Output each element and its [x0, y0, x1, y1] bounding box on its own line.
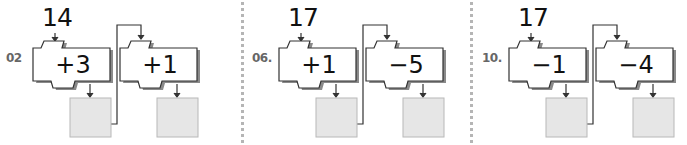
divider-1	[241, 2, 244, 143]
answer-input-1[interactable]	[316, 98, 358, 138]
answer-input-2[interactable]	[157, 98, 199, 138]
operation-1: −1	[513, 53, 585, 77]
answer-input-1[interactable]	[546, 98, 588, 138]
problem-10: 10. 17 −1 −4	[476, 0, 687, 145]
problem-06: 06. 17 +1 −5	[246, 0, 475, 145]
problem-02: 02 14 +3 +1	[0, 0, 229, 145]
operation-2: −4	[600, 53, 672, 77]
answer-input-2[interactable]	[633, 98, 675, 138]
operation-2: −5	[370, 53, 442, 77]
answer-input-1[interactable]	[70, 98, 112, 138]
operation-2: +1	[124, 53, 196, 77]
operation-1: +1	[283, 53, 355, 77]
operation-1: +3	[37, 53, 109, 77]
answer-input-2[interactable]	[403, 98, 445, 138]
